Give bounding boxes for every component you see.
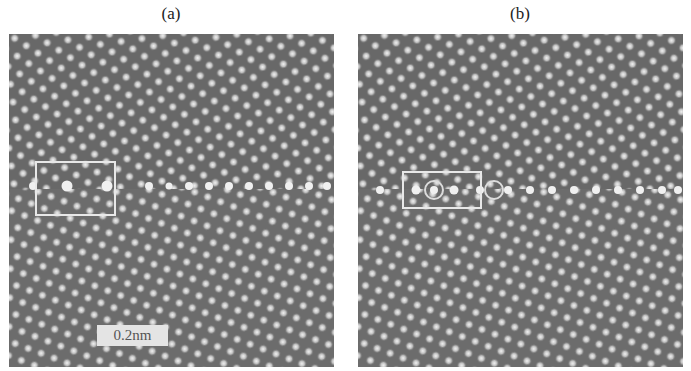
hrtem-image-b bbox=[358, 34, 683, 367]
panel-label-a: (a) bbox=[141, 4, 201, 24]
roi-box-b bbox=[402, 171, 482, 209]
panel-label-b: (b) bbox=[490, 4, 550, 24]
hrtem-image-a: 0.2nm bbox=[9, 34, 334, 367]
scale-bar-label: 0.2nm bbox=[97, 325, 168, 346]
roi-box-a bbox=[35, 161, 116, 216]
